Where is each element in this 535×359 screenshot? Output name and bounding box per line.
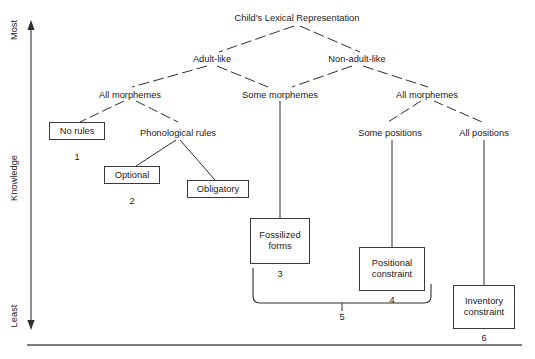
box-positional-constraint: Positional constraint: [359, 247, 425, 291]
axis-arrow-up: [27, 20, 34, 30]
ref-number-3: 3: [277, 269, 282, 279]
axis-label-most: Most: [9, 20, 19, 40]
node-root: Child's Lexical Representation: [235, 13, 360, 24]
axis-label-least: Least: [9, 305, 19, 328]
edge-adultlike-allmorphemes-left: [132, 66, 207, 87]
figure-container: Most Knowledge Least Child's Lexical Rep…: [0, 0, 535, 359]
node-non-adult-like: Non-adult-like: [328, 54, 385, 65]
edge-root-adultlike: [219, 26, 294, 52]
box-optional: Optional: [104, 166, 160, 184]
node-some-morphemes: Some morphemes: [242, 90, 318, 101]
edge-allmorphemes-allpositions: [434, 101, 482, 122]
ref-number-5: 5: [339, 312, 344, 322]
edge-root-nonadultlike: [300, 26, 360, 52]
edge-allmorphemes-phonologicalrules: [136, 101, 178, 122]
node-some-positions: Some positions: [358, 128, 422, 139]
edge-phonological-optional: [136, 140, 176, 166]
box-inventory-constraint: Inventory constraint: [453, 285, 515, 329]
box-fossilized-forms: Fossilized forms: [250, 218, 310, 264]
axis-arrow-down: [27, 320, 34, 330]
edge-allmorphemes-norules: [80, 101, 124, 122]
node-all-morphemes-left: All morphemes: [99, 90, 161, 101]
edge-phonological-obligatory: [180, 140, 215, 180]
ref-number-1: 1: [74, 152, 79, 162]
ref-number-6: 6: [481, 333, 486, 343]
edge-adultlike-somemorphemes: [217, 66, 268, 87]
edge-nonadultlike-somemorphemes: [292, 66, 352, 87]
box-obligatory: Obligatory: [187, 180, 249, 198]
edge-nonadultlike-allmorphemes-right: [363, 66, 428, 87]
node-phonological-rules: Phonological rules: [140, 128, 216, 139]
ref-number-2: 2: [129, 196, 134, 206]
node-adult-like: Adult-like: [193, 54, 231, 65]
edge-allmorphemes-somepositions: [388, 101, 421, 122]
ref-number-4: 4: [389, 295, 394, 305]
node-all-morphemes-right: All morphemes: [396, 90, 458, 101]
node-all-positions: All positions: [459, 128, 509, 139]
axis-label-knowledge: Knowledge: [9, 155, 19, 201]
box-no-rules: No rules: [49, 122, 105, 140]
